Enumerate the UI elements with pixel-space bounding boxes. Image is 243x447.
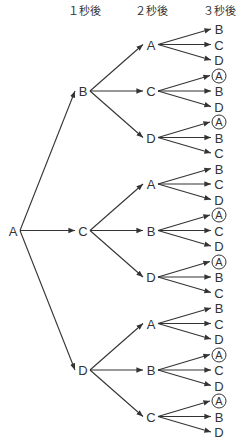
header-3-seconds: ３秒後	[203, 2, 236, 18]
tree-node-level2-a: A	[147, 178, 156, 191]
tree-node-level3-c: C	[214, 224, 223, 237]
tree-node-level3-b: B	[215, 23, 224, 36]
tree-node-level3-a: A	[212, 68, 227, 83]
tree-node-level3-c: C	[214, 178, 223, 191]
tree-node-level2-a: A	[147, 38, 156, 51]
tree-node-level3-c: C	[214, 364, 223, 377]
tree-node-level3-a: A	[212, 254, 227, 269]
tree-node-level3-d: D	[214, 54, 223, 67]
tree-node-level3-a: A	[212, 208, 227, 223]
header-1-second: １秒後	[68, 2, 101, 18]
tree-node-level3-b: B	[215, 302, 224, 315]
tree-node-level2-d: D	[146, 131, 155, 144]
tree-node-level3-b: B	[215, 162, 224, 175]
tree-node-level2-b: B	[147, 364, 156, 377]
tree-node-level3-b: B	[215, 131, 224, 144]
tree-node-level3-a: A	[212, 115, 227, 130]
tree-node-level3-c: C	[214, 317, 223, 330]
tree-node-level3-d: D	[214, 333, 223, 346]
tree-node-level1-b: B	[79, 85, 88, 98]
tree-node-level3-b: B	[215, 410, 224, 423]
tree-node-level3-d: D	[214, 240, 223, 253]
tree-node-level1-d: D	[78, 364, 87, 377]
tree-node-level3-c: C	[214, 147, 223, 160]
tree-node-level3-d: D	[214, 193, 223, 206]
tree-node-level3-a: A	[212, 347, 227, 362]
tree-node-level1-c: C	[78, 224, 87, 237]
tree-node-level2-a: A	[147, 317, 156, 330]
tree-node-level0-a: A	[9, 224, 18, 237]
tree-node-level3-d: D	[214, 426, 223, 439]
tree-node-level2-d: D	[146, 271, 155, 284]
tree-node-level3-c: C	[214, 38, 223, 51]
tree-node-level2-c: C	[146, 410, 155, 423]
tree-node-level2-b: B	[147, 224, 156, 237]
tree-node-level3-a: A	[212, 394, 227, 409]
tree-node-level3-c: C	[214, 286, 223, 299]
tree-node-level3-d: D	[214, 379, 223, 392]
tree-node-level3-d: D	[214, 100, 223, 113]
tree-edges	[0, 0, 243, 447]
header-2-seconds: ２秒後	[135, 2, 168, 18]
tree-node-level3-b: B	[215, 271, 224, 284]
tree-diagram: １秒後 ２秒後 ３秒後 ABABCDCABDDABCCABCDBACDDABCD…	[0, 0, 243, 447]
tree-node-level3-b: B	[215, 85, 224, 98]
tree-node-level2-c: C	[146, 85, 155, 98]
